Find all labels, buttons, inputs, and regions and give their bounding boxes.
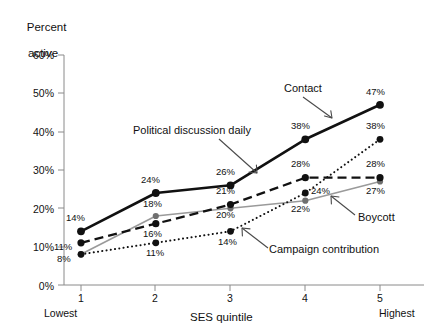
data-label-political-discussion-daily-3: 21% <box>216 185 235 196</box>
data-label-campaign-contribution-3: 14% <box>218 236 237 247</box>
series-annotation-political-discussion-daily: Political discussion daily <box>133 124 251 136</box>
data-label-political-discussion-daily-4: 28% <box>291 158 310 169</box>
data-label-political-discussion-daily-1: 11% <box>54 241 72 252</box>
data-label-boycott-3: 20% <box>216 209 235 220</box>
data-label-campaign-contribution-2: 11% <box>146 247 164 258</box>
series-annotation-campaign-contribution: Campaign contribution <box>269 243 379 255</box>
series-annotation-boycott: Boycott <box>358 211 395 223</box>
data-label-contact-3: 26% <box>216 166 235 177</box>
data-label-contact-5: 47% <box>366 86 385 97</box>
data-label-political-discussion-daily-5: 28% <box>366 158 385 169</box>
plot-area <box>0 0 429 336</box>
data-label-political-discussion-daily-2: 16% <box>143 228 162 239</box>
data-label-boycott-4: 22% <box>291 203 310 214</box>
data-label-campaign-contribution-1: 8% <box>57 253 71 264</box>
line-chart: Percent active SES quintile 60% 50% 40% … <box>0 0 429 336</box>
data-label-contact-2: 24% <box>141 174 160 185</box>
data-label-boycott-2: 18% <box>143 198 162 209</box>
data-label-campaign-contribution-4: 24% <box>311 185 330 196</box>
data-label-boycott-5: 27% <box>366 185 385 196</box>
data-label-contact-4: 38% <box>291 120 310 131</box>
series-annotation-contact: Contact <box>284 82 322 94</box>
data-label-contact-1: 14% <box>66 212 85 223</box>
x-tick-marks <box>81 285 380 291</box>
data-label-campaign-contribution-5: 38% <box>366 120 385 131</box>
